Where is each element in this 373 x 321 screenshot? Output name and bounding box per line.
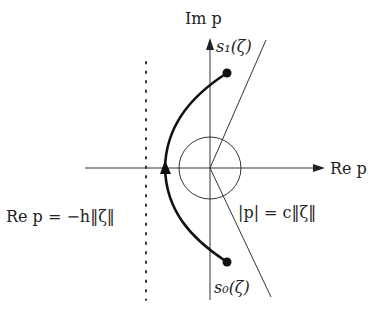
- real-axis-arrow-icon: [313, 164, 325, 172]
- s1-endpoint: [223, 69, 232, 78]
- upper-sector-ray: [210, 40, 266, 168]
- real-axis-label: Re p: [330, 159, 367, 178]
- s1-label: s₁(ζ): [216, 37, 252, 56]
- boundary-line-label: Re p = −h‖ζ‖: [6, 207, 115, 226]
- imaginary-axis-label: Im p: [185, 9, 222, 28]
- imaginary-axis-arrow-icon: [206, 38, 214, 50]
- complex-plane-diagram: Im p Re p s₁(ζ) s₀(ζ) |p| = c‖ζ‖ Re p = …: [0, 0, 373, 321]
- s0-endpoint: [223, 258, 232, 267]
- contour-direction-arrow-icon: [160, 160, 171, 174]
- circle-label: |p| = c‖ζ‖: [238, 203, 316, 222]
- s0-label: s₀(ζ): [214, 278, 250, 297]
